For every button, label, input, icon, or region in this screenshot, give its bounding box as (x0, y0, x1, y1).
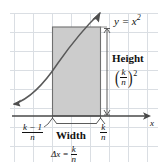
width-equation-row: Δx =kn (51, 145, 77, 165)
left-endpoint-label: k − 1n (22, 123, 43, 143)
height-label: Height (112, 53, 144, 64)
width-measure-ticks (48, 116, 105, 124)
left-endpoint-fraction: k − 1n (22, 123, 43, 143)
right-endpoint-label: kn (100, 123, 107, 143)
left-paren-glyph: ( (115, 68, 120, 87)
width-equation-lhs: Δx = (51, 150, 69, 159)
height-exponent: 2 (133, 69, 137, 78)
approximating-rectangle (53, 27, 101, 116)
x-axis-label: x (150, 119, 154, 128)
height-value-label: (kn)2 (114, 68, 137, 88)
curve-equation-label: y = x2 (114, 14, 141, 27)
right-paren-glyph: ) (128, 68, 133, 87)
width-equation-label: Δx =kn (51, 145, 77, 165)
curve-equation-exponent: 2 (137, 13, 141, 22)
curve-arrowhead-right (92, 10, 104, 23)
left-tick-leader (44, 124, 48, 127)
curve-equation-text: y = x (114, 15, 137, 27)
riemann-sum-figure: y = x2 x Height (kn)2 k − 1n kn Width Δx… (0, 0, 161, 166)
right-endpoint-denominator: n (100, 133, 107, 142)
right-endpoint-fraction: kn (100, 123, 107, 143)
width-label: Width (56, 130, 86, 141)
width-denominator: n (71, 155, 78, 164)
height-denominator: n (120, 78, 127, 87)
height-fraction: kn (120, 68, 127, 88)
left-endpoint-denominator: n (22, 133, 43, 142)
width-fraction: kn (71, 145, 78, 165)
